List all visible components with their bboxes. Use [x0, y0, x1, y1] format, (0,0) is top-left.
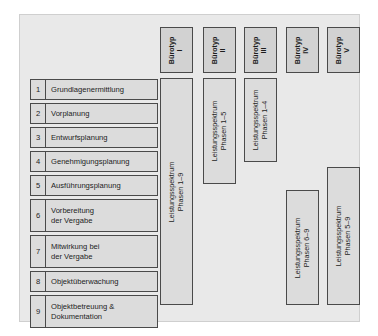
- spectrum-bar-2-line2: Phasen 1–5: [220, 101, 229, 161]
- phase-number-9: 9: [31, 296, 46, 327]
- phase-label-1: Grundlagenermittlung: [46, 85, 124, 95]
- phase-row-5: 5 Ausführungsplanung: [30, 175, 158, 196]
- phase-row-3: 3 Entwurfsplanung: [30, 127, 158, 148]
- phase-label-4: Genehmigungsplanung: [46, 157, 130, 167]
- spectrum-bar-1: Leistungsspektrum Phasen 1–9: [160, 78, 193, 305]
- phase-row-1: 1 Grundlagenermittlung: [30, 79, 158, 100]
- phase-label-6: Vorbereitung der Vergabe: [46, 206, 94, 226]
- spectrum-bar-5-text: Leistungsspektrum Phasen 5–9: [335, 206, 353, 266]
- phase-number-4: 4: [31, 152, 46, 171]
- leistungsspektrum-diagram: Bürotyp I Bürotyp II Bürotyp III Bürotyp…: [0, 0, 378, 336]
- phase-number-8: 8: [31, 272, 46, 291]
- spectrum-bar-2-text: Leistungsspektrum Phasen 1–5: [211, 101, 229, 161]
- spectrum-bar-3-line1: Leistungsspektrum: [252, 90, 261, 150]
- spectrum-bar-3: Leistungsspektrum Phasen 1–4: [244, 78, 277, 162]
- office-type-header-5-text: Bürotyp V: [335, 36, 352, 64]
- office-type-header-2-text: Bürotyp II: [211, 36, 228, 64]
- office-type-header-5-line2: V: [344, 36, 352, 64]
- spectrum-bar-5: Leistungsspektrum Phasen 5–9: [327, 167, 360, 305]
- spectrum-bar-1-line2: Phasen 1–9: [177, 161, 186, 221]
- spectrum-bar-5-line1: Leistungsspektrum: [335, 206, 344, 266]
- office-type-header-1: Bürotyp I: [160, 27, 193, 73]
- phase-row-8: 8 Objektüberwachung: [30, 271, 158, 292]
- office-type-header-4-text: Bürotyp IV: [294, 36, 311, 64]
- phase-row-4: 4 Genehmigungsplanung: [30, 151, 158, 172]
- office-type-header-3-text: Bürotyp III: [252, 36, 269, 64]
- phase-label-2: Vorplanung: [46, 109, 89, 119]
- spectrum-bar-4: Leistungsspektrum Phasen 6–9: [286, 190, 319, 305]
- phase-number-5: 5: [31, 176, 46, 195]
- phase-label-9: Objektbetreuung & Dokumentation: [46, 302, 114, 322]
- phase-number-6: 6: [31, 200, 46, 231]
- office-type-header-4-line2: IV: [303, 36, 311, 64]
- phase-label-7: Mitwirkung bei der Vergabe: [46, 242, 100, 262]
- phase-row-2: 2 Vorplanung: [30, 103, 158, 124]
- office-type-header-3: Bürotyp III: [244, 27, 277, 73]
- phase-row-6: 6 Vorbereitung der Vergabe: [30, 199, 158, 232]
- office-type-header-1-line2: I: [177, 36, 185, 64]
- office-type-header-3-line2: III: [261, 36, 269, 64]
- office-type-header-5: Bürotyp V: [327, 27, 360, 73]
- phase-label-5: Ausführungsplanung: [46, 181, 121, 191]
- phase-row-9: 9 Objektbetreuung & Dokumentation: [30, 295, 158, 328]
- office-type-header-2-line2: II: [220, 36, 228, 64]
- spectrum-bar-3-line2: Phasen 1–4: [261, 90, 270, 150]
- phase-number-3: 3: [31, 128, 46, 147]
- office-type-header-2: Bürotyp II: [203, 27, 236, 73]
- spectrum-bar-4-text: Leistungsspektrum Phasen 6–9: [294, 217, 312, 277]
- phase-number-2: 2: [31, 104, 46, 123]
- spectrum-bar-2: Leistungsspektrum Phasen 1–5: [203, 78, 236, 184]
- spectrum-bar-1-line1: Leistungsspektrum: [168, 161, 177, 221]
- spectrum-bar-4-line1: Leistungsspektrum: [294, 217, 303, 277]
- office-type-header-1-text: Bürotyp I: [168, 36, 185, 64]
- spectrum-bar-4-line2: Phasen 6–9: [303, 217, 312, 277]
- spectrum-bar-5-line2: Phasen 5–9: [344, 206, 353, 266]
- phase-number-7: 7: [31, 236, 46, 267]
- spectrum-bar-3-text: Leistungsspektrum Phasen 1–4: [252, 90, 270, 150]
- spectrum-bar-1-text: Leistungsspektrum Phasen 1–9: [168, 161, 186, 221]
- phase-label-3: Entwurfsplanung: [46, 133, 108, 143]
- office-type-header-4: Bürotyp IV: [286, 27, 319, 73]
- phase-row-7: 7 Mitwirkung bei der Vergabe: [30, 235, 158, 268]
- phase-number-1: 1: [31, 80, 46, 99]
- spectrum-bar-2-line1: Leistungsspektrum: [211, 101, 220, 161]
- phase-label-8: Objektüberwachung: [46, 277, 119, 287]
